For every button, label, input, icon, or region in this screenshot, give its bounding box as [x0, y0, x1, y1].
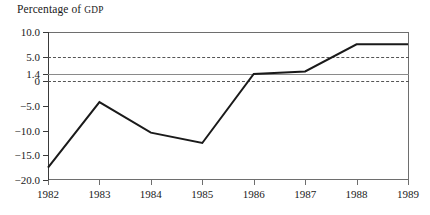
- y-tick-label: 5.0: [26, 51, 40, 63]
- x-tick-label-1984: 1984: [140, 188, 162, 200]
- series-line-percentage-of-gdp: [48, 44, 408, 167]
- x-tick-mark: [202, 180, 203, 185]
- x-tick-mark: [99, 180, 100, 185]
- x-tick-mark: [254, 180, 255, 185]
- x-tick-mark: [305, 180, 306, 185]
- y-tick-label: −20.0: [15, 174, 40, 186]
- x-tick-mark: [357, 180, 358, 185]
- y-tick-label: 10.0: [21, 26, 40, 38]
- x-tick-mark: [408, 180, 409, 185]
- x-tick-label-1986: 1986: [243, 188, 265, 200]
- series-line-group: [48, 32, 409, 180]
- chart-title-main: Percentage of: [17, 3, 84, 15]
- y-tick-label: −15.0: [15, 149, 40, 161]
- x-tick-label-1983: 1983: [88, 188, 110, 200]
- x-tick-label-1985: 1985: [191, 188, 213, 200]
- y-tick-label: −5.0: [20, 100, 40, 112]
- x-tick-label-1988: 1988: [346, 188, 368, 200]
- plot-area: 10.05.01.40−5.0−10.0−15.0−20.0 198219831…: [48, 32, 409, 180]
- x-tick-label-1987: 1987: [294, 188, 316, 200]
- x-tick-label-1989: 1989: [397, 188, 419, 200]
- x-tick-label-1982: 1982: [37, 188, 59, 200]
- chart-title-smallcaps: GDP: [84, 5, 104, 15]
- chart-figure: Percentage of GDP 10.05.01.40−5.0−10.0−1…: [0, 0, 430, 215]
- x-tick-mark: [151, 180, 152, 185]
- y-tick-label: −10.0: [15, 125, 40, 137]
- x-tick-mark: [48, 180, 49, 185]
- chart-title: Percentage of GDP: [17, 3, 104, 15]
- y-tick-label: 0: [35, 75, 41, 87]
